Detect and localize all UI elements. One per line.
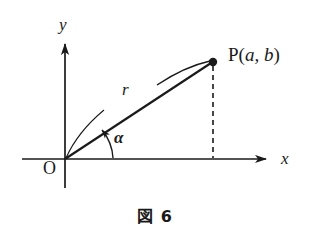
figure-caption: 図 6 xyxy=(0,203,310,227)
point-p-coord-a: a xyxy=(245,44,255,65)
point-p-separator: , xyxy=(254,44,264,65)
point-p-suffix: ) xyxy=(273,44,279,65)
point-p-prefix: P( xyxy=(228,44,245,65)
angle-alpha-label: α xyxy=(114,129,123,146)
point-p-label: P(a, b) xyxy=(228,45,280,64)
y-axis-label: y xyxy=(59,16,67,33)
x-axis-label: x xyxy=(281,150,289,167)
radius-label: r xyxy=(122,81,129,98)
origin-sweep-curve xyxy=(66,110,104,158)
radius-segment xyxy=(65,63,211,159)
point-p-coord-b: b xyxy=(264,44,274,65)
origin-label: O xyxy=(43,159,56,177)
figure-container: y x O r α P(a, b) 図 6 xyxy=(0,0,310,238)
point-p-marker xyxy=(209,58,217,66)
